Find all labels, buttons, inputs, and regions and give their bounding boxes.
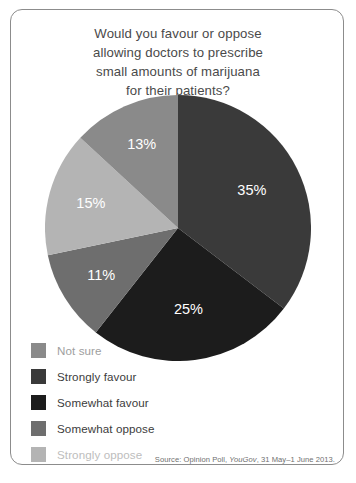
legend-item-somewhat-favour[interactable]: Somewhat favour xyxy=(31,390,231,414)
pie-label-somewhat-favour: 25% xyxy=(174,301,203,317)
pie-label-strongly-favour: 35% xyxy=(237,182,266,198)
source-note: Source: Opinion Poll, YouGov, 31 May–1 J… xyxy=(155,455,335,464)
source-note-prefix: Source: Opinion Poll, xyxy=(155,455,230,464)
legend-label-not-sure: Not sure xyxy=(57,344,102,357)
legend-swatch-somewhat-oppose xyxy=(31,421,46,436)
chart-title-line-3: small amounts of marijuana xyxy=(28,62,328,81)
legend-item-strongly-favour[interactable]: Strongly favour xyxy=(31,364,231,388)
pie-chart-svg: 35%25%11%15%13% xyxy=(45,95,311,361)
source-note-org: YouGov xyxy=(229,455,256,464)
legend-label-somewhat-oppose: Somewhat oppose xyxy=(57,422,155,435)
pie-label-not-sure: 13% xyxy=(127,136,156,152)
chart-title-line-2: allowing doctors to prescribe xyxy=(28,43,328,62)
legend-label-somewhat-favour: Somewhat favour xyxy=(57,396,149,409)
pie-label-somewhat-oppose: 11% xyxy=(87,267,115,283)
legend: Not sure Strongly favour Somewhat favour… xyxy=(31,338,231,468)
source-note-suffix: , 31 May–1 June 2013. xyxy=(257,455,335,464)
chart-title-line-1: Would you favour or oppose xyxy=(28,24,328,43)
legend-item-somewhat-oppose[interactable]: Somewhat oppose xyxy=(31,416,231,440)
pie-chart: 35%25%11%15%13% xyxy=(45,95,311,361)
legend-swatch-not-sure xyxy=(31,343,46,358)
legend-swatch-somewhat-favour xyxy=(31,395,46,410)
legend-item-not-sure[interactable]: Not sure xyxy=(31,338,231,362)
pie-label-strongly-oppose: 15% xyxy=(76,195,105,211)
legend-label-strongly-favour: Strongly favour xyxy=(57,370,136,383)
chart-title: Would you favour or oppose allowing doct… xyxy=(28,24,328,100)
pie-slice-group xyxy=(45,95,311,361)
legend-label-strongly-oppose: Strongly oppose xyxy=(57,448,142,461)
legend-swatch-strongly-favour xyxy=(31,369,46,384)
legend-swatch-strongly-oppose xyxy=(31,447,46,462)
poll-chart-figure: Would you favour or oppose allowing doct… xyxy=(0,0,356,483)
